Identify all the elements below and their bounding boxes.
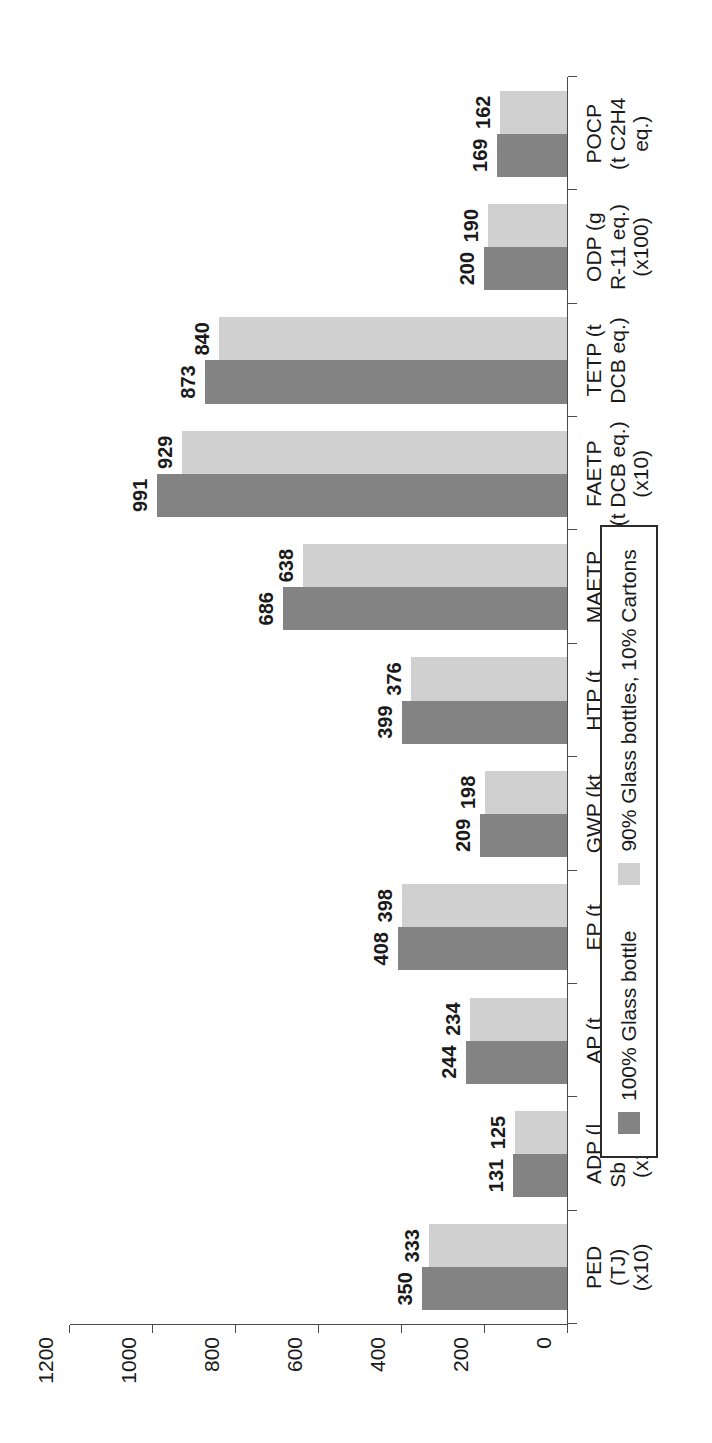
bar-group: 873840 [70,304,567,417]
value-tick [567,1325,568,1333]
category-tick [568,76,577,77]
bar-value-label: 408 [370,932,393,965]
bar-value-label: 244 [438,1045,461,1078]
bar: 131 [513,1154,567,1197]
value-axis-line [70,1324,568,1325]
category-tick [568,303,577,304]
category-tick [568,189,577,190]
value-tick-label: 600 [283,1337,307,1372]
bar-group: 991929 [70,417,567,530]
category-tick [568,983,577,984]
bar: 398 [402,884,567,927]
bar: 125 [515,1111,567,1154]
bar: 991 [157,474,567,517]
legend-item-series-2: 90% Glass bottles, 10% Cartons [617,549,641,884]
bar: 376 [411,657,567,700]
bar: 929 [182,431,567,474]
value-tick-label: 800 [200,1337,224,1372]
chart-legend: 100% Glass bottle 90% Glass bottles, 10%… [600,525,658,1158]
bar-group: 686638 [70,530,567,643]
bar-value-label: 169 [469,139,492,172]
category-label: PED (TJ) (x10) [582,1211,653,1324]
bar-value-label: 200 [456,252,479,285]
bar-group: 169162 [70,77,567,190]
bar-value-label: 929 [154,436,177,469]
category-label: FAETP (t DCB eq.) (x10) [582,417,653,530]
bar-value-label: 399 [374,705,397,738]
legend-item-series-1: 100% Glass bottle [617,931,641,1134]
bar: 840 [219,317,567,360]
category-tick [568,1323,577,1324]
bar: 873 [205,360,567,403]
bar: 333 [429,1224,567,1267]
category-axis-ticks [568,77,578,1324]
bar-value-label: 125 [487,1116,510,1149]
category-tick [568,1096,577,1097]
category-tick [568,643,577,644]
category-label: ODP (g R-11 eq.) (x100) [582,190,653,303]
bar-chart: 020040060080010001200 350333131125244234… [0,0,712,1443]
bar-value-label: 209 [452,819,475,852]
bar-value-label: 991 [129,479,152,512]
bar: 234 [470,998,567,1041]
value-tick [318,1325,319,1333]
bar-group: 209198 [70,757,567,870]
rotated-figure-container: 020040060080010001200 350333131125244234… [0,0,712,1443]
value-tick-label: 400 [366,1337,390,1372]
bar-value-label: 840 [191,322,214,355]
value-tick [484,1325,485,1333]
bar-group: 408398 [70,871,567,984]
value-tick-label: 1000 [117,1337,141,1384]
value-tick [152,1325,153,1333]
bar: 408 [398,927,567,970]
bar: 244 [466,1041,567,1084]
bar: 169 [497,134,567,177]
bar-groups: 3503331311252442344083982091983993766866… [70,77,567,1324]
value-tick [69,1325,70,1333]
legend-swatch-icon [618,863,640,885]
category-tick [568,1210,577,1211]
bar-value-label: 234 [442,1002,465,1035]
legend-swatch-icon [618,1112,640,1134]
bar-value-label: 638 [275,549,298,582]
bar-value-label: 198 [457,776,480,809]
bar: 209 [480,814,567,857]
bar-group: 200190 [70,190,567,303]
bar: 638 [303,544,567,587]
bar-value-label: 162 [472,96,495,129]
bar-value-label: 190 [460,209,483,242]
value-tick [401,1325,402,1333]
bar: 686 [283,587,567,630]
bar: 162 [500,91,567,134]
bar-group: 350333 [70,1211,567,1324]
bar: 198 [485,771,567,814]
bar-value-label: 686 [255,592,278,625]
bar: 190 [488,204,567,247]
category-tick [568,870,577,871]
legend-label: 100% Glass bottle [617,931,641,1101]
bar-group: 244234 [70,984,567,1097]
legend-label: 90% Glass bottles, 10% Cartons [617,549,641,851]
bar-value-label: 131 [485,1159,508,1192]
category-label: TETP (t DCB eq.) [582,304,653,417]
category-tick [568,756,577,757]
bar-group: 399376 [70,644,567,757]
bar: 399 [402,701,567,744]
bar-value-label: 873 [177,365,200,398]
bar-value-label: 333 [401,1229,424,1262]
bar: 200 [484,247,567,290]
category-tick [568,416,577,417]
value-tick-label: 200 [449,1337,473,1372]
bar-value-label: 376 [383,662,406,695]
value-tick-label: 0 [532,1337,556,1349]
bar-group: 131125 [70,1097,567,1210]
bar: 350 [422,1267,567,1310]
bar-value-label: 398 [374,889,397,922]
bar-value-label: 350 [394,1272,417,1305]
plot-area: 020040060080010001200 350333131125244234… [70,77,568,1325]
category-tick [568,529,577,530]
value-tick [235,1325,236,1333]
value-tick-label: 1200 [34,1337,58,1384]
category-label: POCP (t C2H4 eq.) [582,77,653,190]
